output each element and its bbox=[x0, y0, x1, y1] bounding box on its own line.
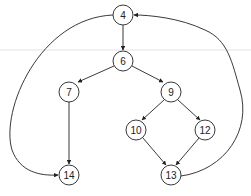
svg-text:13: 13 bbox=[165, 170, 177, 181]
edge-9-12 bbox=[178, 100, 200, 120]
svg-text:9: 9 bbox=[168, 87, 174, 98]
svg-text:12: 12 bbox=[199, 125, 211, 136]
node-10: 10 bbox=[126, 120, 146, 140]
edge-6-7 bbox=[78, 66, 114, 82]
edge-9-10 bbox=[142, 100, 164, 120]
svg-text:14: 14 bbox=[63, 170, 75, 181]
svg-text:4: 4 bbox=[120, 10, 126, 21]
control-flow-graph: 4 6 7 9 10 12 13 14 bbox=[0, 0, 251, 196]
edges bbox=[10, 15, 243, 176]
svg-text:7: 7 bbox=[66, 87, 72, 98]
edge-13-4 bbox=[134, 15, 243, 176]
node-12: 12 bbox=[195, 120, 215, 140]
edge-12-13 bbox=[176, 138, 199, 165]
node-9: 9 bbox=[161, 82, 181, 102]
node-6: 6 bbox=[113, 51, 133, 71]
edge-10-13 bbox=[143, 138, 166, 165]
svg-text:10: 10 bbox=[130, 125, 142, 136]
node-7: 7 bbox=[59, 82, 79, 102]
node-14: 14 bbox=[59, 165, 79, 185]
node-13: 13 bbox=[161, 165, 181, 185]
svg-text:6: 6 bbox=[120, 56, 126, 67]
edge-6-9 bbox=[132, 66, 163, 82]
node-4: 4 bbox=[113, 5, 133, 25]
